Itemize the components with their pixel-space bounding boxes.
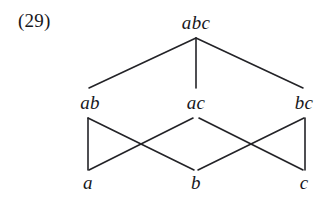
- figure-container: (29) abcabacbcabc: [0, 0, 328, 205]
- node-label-b: b: [191, 173, 201, 192]
- node-label-bc: bc: [295, 93, 314, 112]
- node-label-ab: ab: [80, 93, 100, 112]
- edge-abc-bc: [196, 38, 303, 88]
- node-label-abc: abc: [182, 13, 210, 32]
- node-label-c: c: [300, 173, 309, 192]
- node-label-ac: ac: [187, 93, 206, 112]
- lattice-diagram-svg: [0, 0, 328, 205]
- node-label-a: a: [83, 173, 93, 192]
- edge-abc-ab: [89, 38, 196, 88]
